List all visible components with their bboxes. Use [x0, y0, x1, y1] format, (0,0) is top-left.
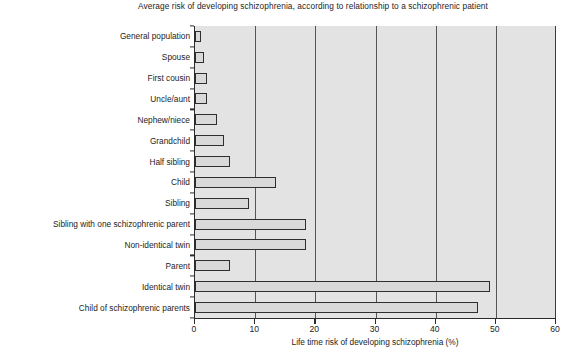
bar-row	[195, 172, 556, 193]
bar-row	[195, 89, 556, 110]
bar-row	[195, 47, 556, 68]
bar	[195, 114, 217, 125]
bar	[195, 198, 249, 209]
x-axis-tick-label: 50	[490, 324, 500, 334]
bar	[195, 73, 207, 84]
bar	[195, 156, 230, 167]
y-axis-label: Non-identical twin	[0, 240, 190, 250]
bar	[195, 260, 230, 271]
y-axis-label: First cousin	[0, 73, 190, 83]
bar-row	[195, 68, 556, 89]
plot-area	[194, 26, 556, 319]
bar-row	[195, 214, 556, 235]
bars-layer	[195, 26, 556, 318]
bar-row	[195, 193, 556, 214]
y-axis-label: Nephew/niece	[0, 115, 190, 125]
x-axis-tick	[314, 319, 315, 324]
x-axis-tick	[375, 319, 376, 324]
x-axis-tick-label: 40	[430, 324, 440, 334]
bar	[195, 177, 276, 188]
bar-row	[195, 151, 556, 172]
bar	[195, 239, 306, 250]
bar	[195, 31, 201, 42]
y-axis-label: General population	[0, 31, 190, 41]
bar-row	[195, 235, 556, 256]
bar	[195, 135, 224, 146]
x-axis-tick	[495, 319, 496, 324]
bar-row	[195, 255, 556, 276]
bar-row	[195, 276, 556, 297]
y-axis-label: Child of schizophrenic parents	[0, 303, 190, 313]
y-axis-label: Half sibling	[0, 157, 190, 167]
y-axis-label: Grandchild	[0, 136, 190, 146]
y-axis-label: Uncle/aunt	[0, 94, 190, 104]
bar-row	[195, 130, 556, 151]
chart-title: Average risk of developing schizophrenia…	[0, 1, 588, 11]
x-axis-tick	[254, 319, 255, 324]
x-axis-tick-label: 20	[310, 324, 320, 334]
y-axis-label: Child	[0, 177, 190, 187]
y-axis-label: Spouse	[0, 52, 190, 62]
bar-row	[195, 109, 556, 130]
bar-row	[195, 297, 556, 318]
y-axis-label: Parent	[0, 261, 190, 271]
x-axis-tick	[555, 319, 556, 324]
x-axis-tick	[435, 319, 436, 324]
y-axis-category-labels: General populationSpouseFirst cousinUncl…	[0, 26, 190, 318]
x-axis-tick-label: 60	[550, 324, 560, 334]
y-axis-label: Identical twin	[0, 282, 190, 292]
y-axis-label: Sibling	[0, 198, 190, 208]
x-axis-tick-label: 0	[192, 324, 197, 334]
bar	[195, 52, 204, 63]
y-axis-label: Sibling with one schizophrenic parent	[0, 219, 190, 229]
x-axis-title: Life time risk of developing schizophren…	[194, 337, 556, 347]
bar-row	[195, 26, 556, 47]
bar	[195, 93, 207, 104]
x-axis-tick	[194, 319, 195, 324]
x-axis-tick-label: 30	[370, 324, 380, 334]
x-axis-tick-labels: 0102030405060	[0, 324, 588, 338]
bar	[195, 302, 478, 313]
x-axis-tick-label: 10	[249, 324, 259, 334]
bar	[195, 281, 490, 292]
bar	[195, 219, 306, 230]
